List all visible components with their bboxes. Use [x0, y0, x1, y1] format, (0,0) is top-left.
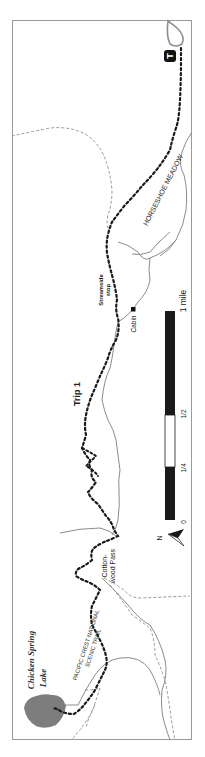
cabin-marker — [131, 307, 136, 312]
scale-label-mile: 1 mile — [178, 289, 188, 312]
stream-pass-branch — [60, 528, 116, 536]
secondary-trail-lower-3 — [72, 688, 100, 740]
scale-label-half: 1/2 — [180, 409, 187, 418]
secondary-trail-lower-1 — [104, 578, 190, 598]
streamside-stop-label-1: Streamside — [98, 274, 104, 306]
cabin-label: Cabin — [130, 315, 137, 332]
north-label: N — [156, 535, 163, 540]
scale-label-0: 0 — [180, 520, 187, 524]
trail-map: T 0 1/4 1/2 1 mile N HORSESHOE MEADOW St… — [0, 0, 205, 757]
north-arrow-icon: N — [156, 529, 185, 546]
meadow-label: HORSESHOE MEADOW — [142, 153, 184, 227]
pass-label-2: wood Pass — [109, 548, 116, 584]
map-frame — [13, 21, 192, 740]
scale-bar: 0 1/4 1/2 1 mile — [165, 289, 188, 523]
trailhead-label: T — [165, 53, 175, 59]
secondary-trail — [12, 128, 112, 228]
stream-fork-1 — [118, 242, 150, 259]
scale-label-quarter: 1/4 — [180, 463, 187, 472]
lake-label-1: Chicken Spring — [26, 630, 36, 689]
trailhead-marker[interactable]: T — [164, 50, 176, 62]
main-trail — [52, 48, 181, 714]
streamside-stop-label-2: stop — [105, 283, 111, 296]
trip-label: Trip 1 — [72, 382, 82, 406]
pass-label-1: Cotton- — [101, 554, 108, 578]
stream-main — [102, 132, 192, 535]
lake-label-2: Lake — [38, 669, 48, 689]
